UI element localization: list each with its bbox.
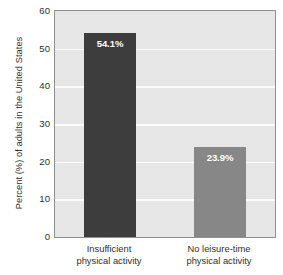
y-axis-tick-labels: 60 50 40 30 20 10 0 bbox=[22, 0, 50, 275]
y-tick-label: 10 bbox=[22, 193, 50, 204]
x-tick-label-line: physical activity bbox=[54, 255, 164, 267]
y-tick-label: 20 bbox=[22, 155, 50, 166]
y-tick-label: 50 bbox=[22, 42, 50, 53]
y-tick-label: 60 bbox=[22, 5, 50, 16]
y-tick-label: 40 bbox=[22, 80, 50, 91]
x-tick-label-line: Insufficient bbox=[54, 243, 164, 255]
bar-insufficient-physical-activity: 54.1% bbox=[84, 33, 136, 237]
x-tick-label-insufficient-physical-activity: Insufficient physical activity bbox=[54, 243, 164, 266]
bar-value-label: 54.1% bbox=[84, 38, 136, 49]
y-tick-label: 0 bbox=[22, 231, 50, 242]
bar-no-leisure-time-physical-activity: 23.9% bbox=[194, 147, 246, 237]
y-tick-label: 30 bbox=[22, 118, 50, 129]
x-tick-label-line: No leisure-time bbox=[164, 243, 274, 255]
x-tick-label-line: physical activity bbox=[164, 255, 274, 267]
plot-area: 54.1% 23.9% bbox=[54, 10, 276, 238]
bar-series: 54.1% 23.9% bbox=[55, 11, 275, 237]
x-tick-label-no-leisure-time-physical-activity: No leisure-time physical activity bbox=[164, 243, 274, 266]
x-axis-tick-labels: Insufficient physical activity No leisur… bbox=[54, 243, 276, 275]
bar-chart: Percent (%) of adults in the United Stat… bbox=[0, 0, 283, 275]
bar-value-label: 23.9% bbox=[194, 152, 246, 163]
